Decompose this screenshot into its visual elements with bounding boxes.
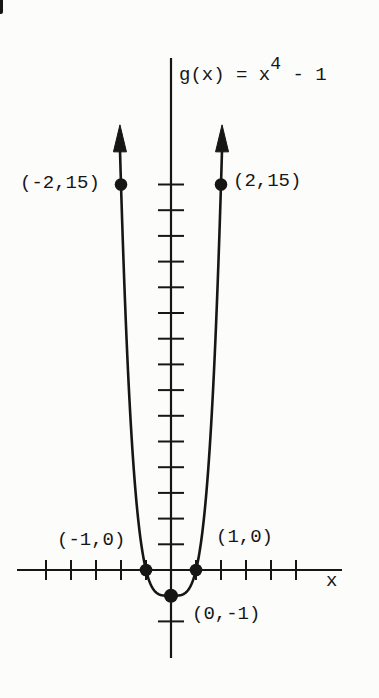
function-graph-figure: g(x) = x4 - 1 (-2,15) (2,15) (-1,0) (1,0…: [0, 0, 379, 698]
equation-label: g(x) = x4 - 1: [179, 64, 327, 86]
point-label-m1-0: (-1,0): [57, 529, 125, 551]
plot-canvas: [0, 0, 379, 698]
arrow-up-icon-left: [113, 125, 126, 152]
equation-suffix: - 1: [281, 64, 327, 86]
equation-prefix: g(x) = x: [179, 64, 270, 86]
data-point-dot: [215, 178, 228, 191]
data-point-dot: [164, 589, 178, 603]
data-point-dot: [190, 564, 203, 577]
data-point-dot: [115, 178, 128, 191]
point-label-m2-15: (-2,15): [20, 172, 100, 194]
point-label-2-15: (2,15): [233, 170, 301, 192]
arrow-up-icon-right: [216, 125, 229, 152]
point-label-1-0: (1,0): [216, 526, 273, 548]
data-point-dot: [140, 564, 153, 577]
point-label-0-m1: (0,-1): [192, 603, 260, 625]
equation-exponent: 4: [270, 54, 281, 74]
x-axis-label: x: [326, 570, 337, 592]
